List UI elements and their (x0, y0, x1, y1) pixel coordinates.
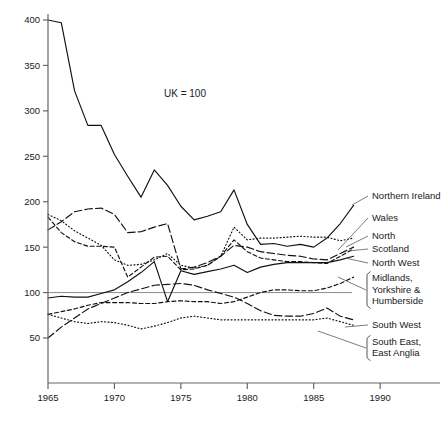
y-tick-label-350: 350 (24, 60, 40, 71)
chart-container: 5010015020025030035040019651970197519801… (0, 0, 447, 432)
legend-label-north-west[interactable]: North West (372, 257, 420, 268)
series-line-south-west (48, 314, 354, 329)
y-tick-label-50: 50 (29, 332, 40, 343)
legend-label-south-east-east-anglia[interactable]: East Anglia (372, 347, 420, 358)
series-line-wales (48, 214, 354, 268)
series-line-north-west (48, 256, 354, 301)
x-tick-label-1975: 1975 (170, 392, 191, 403)
y-tick-label-200: 200 (24, 196, 40, 207)
y-tick-label-400: 400 (24, 14, 40, 25)
series-line-north (48, 208, 354, 269)
legend-leader-layer (318, 196, 368, 348)
legend-leader-north-west (345, 258, 368, 263)
uk-equals-100-annotation: UK = 100 (164, 88, 206, 99)
legend-label-midlands-yorkshire-humberside[interactable]: Yorkshire & (372, 284, 421, 295)
legend-leader-south-west (345, 325, 368, 327)
legend-bracket-south-east-east-anglia (367, 335, 371, 361)
cropped-title-fragment (62, 0, 392, 7)
legend-label-midlands-yorkshire-humberside[interactable]: Midlands, (372, 272, 413, 283)
series-line-scotland (48, 217, 354, 277)
legend-leader-wales (338, 218, 368, 250)
legend-layer: Northern IrelandWalesNorthScotlandNorth … (367, 190, 441, 361)
annotation-layer: UK = 100 (164, 88, 206, 99)
x-tick-label-1970: 1970 (104, 392, 125, 403)
line-chart: 5010015020025030035040019651970197519801… (0, 0, 447, 432)
x-tick-label-1980: 1980 (237, 392, 258, 403)
legend-leader-south-east-east-anglia (318, 331, 366, 348)
legend-label-wales[interactable]: Wales (372, 212, 398, 223)
legend-label-south-west[interactable]: South West (372, 319, 421, 330)
legend-bracket-midlands-yorkshire-humberside (367, 272, 371, 309)
y-tick-label-100: 100 (24, 287, 40, 298)
x-tick-label-1985: 1985 (303, 392, 324, 403)
legend-leader-northern-ireland (352, 196, 368, 205)
legend-label-north[interactable]: North (372, 230, 395, 241)
x-tick-label-1965: 1965 (37, 392, 58, 403)
series-layer (48, 20, 354, 338)
y-tick-label-300: 300 (24, 105, 40, 116)
y-tick-label-150: 150 (24, 242, 40, 253)
legend-label-scotland[interactable]: Scotland (372, 243, 409, 254)
legend-label-south-east-east-anglia[interactable]: South East, (372, 336, 421, 347)
x-tick-label-1990: 1990 (370, 392, 391, 403)
y-tick-label-250: 250 (24, 151, 40, 162)
legend-leader-midlands-yorkshire-humberside (338, 277, 366, 290)
series-line-northern-ireland (48, 20, 354, 247)
legend-label-northern-ireland[interactable]: Northern Ireland (372, 190, 441, 201)
legend-label-midlands-yorkshire-humberside[interactable]: Humberside (372, 295, 423, 306)
series-line-south-east-east-anglia (48, 283, 354, 338)
